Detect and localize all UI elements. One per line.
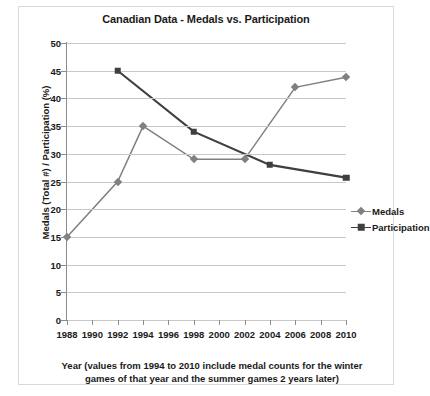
- y-tick-label: 5: [27, 287, 61, 298]
- participation-marker-icon: [351, 222, 371, 232]
- gridline: [67, 292, 346, 293]
- legend-item-participation: Participation: [351, 219, 430, 235]
- gridline: [67, 98, 346, 99]
- y-tick-mark: [61, 209, 67, 210]
- gridline: [67, 71, 346, 72]
- data-point-participation: [267, 162, 274, 169]
- data-point-participation: [191, 128, 198, 135]
- x-tick-mark: [346, 320, 347, 325]
- series-line-participation: [118, 71, 346, 178]
- x-tick-mark: [321, 320, 322, 325]
- gridline: [67, 126, 346, 127]
- y-tick-mark: [61, 71, 67, 72]
- y-tick-mark: [61, 126, 67, 127]
- chart-container: Canadian Data - Medals vs. Participation…: [18, 6, 394, 385]
- y-tick-mark: [61, 154, 67, 155]
- x-axis-caption: Year (values from 1994 to 2010 include m…: [49, 359, 375, 385]
- data-point-participation: [343, 174, 350, 181]
- y-tick-label: 0: [27, 315, 61, 326]
- data-point-participation: [114, 67, 121, 74]
- y-tick-mark: [61, 182, 67, 183]
- y-tick-mark: [61, 237, 67, 238]
- legend-item-medals: Medals: [351, 203, 430, 219]
- y-tick-mark: [61, 98, 67, 99]
- x-tick-mark: [245, 320, 246, 325]
- chart-title: Canadian Data - Medals vs. Participation: [19, 13, 393, 25]
- gridline: [67, 265, 346, 266]
- medals-marker-icon: [351, 206, 371, 216]
- y-tick-label: 50: [27, 38, 61, 49]
- x-tick-mark: [168, 320, 169, 325]
- x-tick-mark: [270, 320, 271, 325]
- gridline: [67, 320, 346, 321]
- x-tick-mark: [194, 320, 195, 325]
- x-tick-label: 2010: [326, 329, 366, 340]
- gridline: [67, 209, 346, 210]
- x-tick-mark: [67, 320, 68, 325]
- gridline: [67, 237, 346, 238]
- gridline: [67, 154, 346, 155]
- y-tick-mark: [61, 43, 67, 44]
- x-tick-mark: [143, 320, 144, 325]
- x-tick-mark: [295, 320, 296, 325]
- gridline: [67, 182, 346, 183]
- series-line-medals: [67, 77, 346, 237]
- x-tick-mark: [92, 320, 93, 325]
- x-tick-mark: [219, 320, 220, 325]
- gridline: [67, 43, 346, 44]
- plot-area: [67, 43, 346, 320]
- legend-label-medals: Medals: [372, 206, 404, 217]
- legend-label-participation: Participation: [372, 222, 430, 233]
- y-tick-mark: [61, 292, 67, 293]
- y-tick-mark: [61, 265, 67, 266]
- y-axis-title: Medals (Total #) / Participation (%): [40, 63, 51, 263]
- x-tick-mark: [118, 320, 119, 325]
- chart-legend: Medals Participation: [351, 203, 430, 235]
